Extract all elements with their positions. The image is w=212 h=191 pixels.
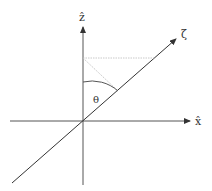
z-axis-label: ẑ (79, 11, 85, 24)
diagram-canvas: ẑ x̂ ζ θ (0, 0, 212, 191)
theta-label: θ (93, 94, 99, 105)
diagonal-projection-line (83, 58, 118, 91)
zeta-axis-label: ζ (181, 28, 187, 41)
zeta-axis (12, 39, 176, 183)
x-axis-label: x̂ (195, 115, 202, 128)
